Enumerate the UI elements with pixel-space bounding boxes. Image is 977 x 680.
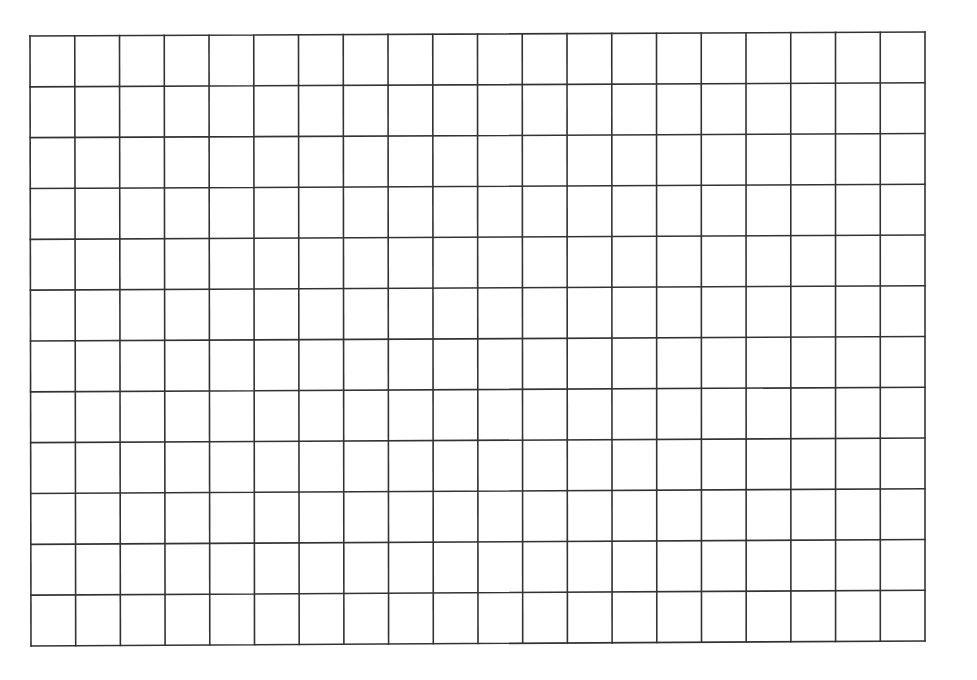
grid-lines [30, 32, 925, 646]
square-grid [0, 0, 977, 680]
page-canvas [0, 0, 977, 680]
